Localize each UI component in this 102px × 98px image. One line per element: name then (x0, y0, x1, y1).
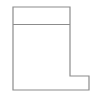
boot-outline-polygon (13, 7, 89, 90)
drawing-canvas (0, 0, 102, 98)
boot-shape-figure (0, 0, 102, 98)
